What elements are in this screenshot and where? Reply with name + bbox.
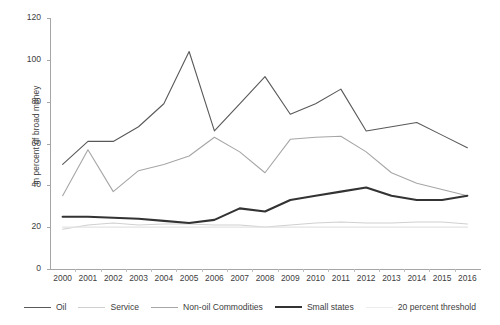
line-chart: in percent of broad money 02040608010012…: [0, 0, 500, 325]
legend-line-swatch: [366, 307, 393, 308]
legend-item[interactable]: Non-oil Commodities: [151, 302, 263, 312]
legend-item[interactable]: Oil: [24, 302, 67, 312]
x-tick-mark: [379, 269, 380, 272]
legend-label: 20 percent threshold: [398, 302, 476, 312]
legend-line-swatch: [78, 307, 105, 308]
legend-label: Non-oil Commodities: [183, 302, 263, 312]
x-tick-mark: [328, 269, 329, 272]
x-tick-mark: [202, 269, 203, 272]
y-tick-label: 0: [36, 264, 41, 273]
series-line: [63, 187, 468, 223]
y-tick-label: 60: [31, 139, 41, 148]
y-tick-label: 80: [31, 97, 41, 106]
y-axis-ticks: 020406080100120: [0, 0, 46, 325]
x-tick-mark: [278, 269, 279, 272]
y-tick-label: 20: [31, 222, 41, 231]
legend-item[interactable]: Service: [78, 302, 139, 312]
x-tick-mark: [303, 269, 304, 272]
x-tick-mark: [252, 269, 253, 272]
x-tick-mark: [455, 269, 456, 272]
x-tick-mark: [101, 269, 102, 272]
series-line: [63, 222, 468, 229]
x-tick-mark: [176, 269, 177, 272]
legend-line-swatch: [24, 307, 51, 308]
x-tick-mark: [126, 269, 127, 272]
x-tick-mark: [429, 269, 430, 272]
legend-item[interactable]: 20 percent threshold: [366, 302, 476, 312]
x-axis-ticks: 2000200120022003200420052006200720082009…: [50, 273, 480, 287]
x-tick-label: 2016: [447, 273, 487, 283]
plot-area: [50, 18, 480, 269]
legend-label: Small states: [307, 302, 354, 312]
x-tick-mark: [151, 269, 152, 272]
series-line: [63, 51, 468, 164]
legend-line-swatch: [275, 306, 302, 308]
y-tick-label: 100: [27, 55, 41, 64]
x-tick-mark: [404, 269, 405, 272]
x-tick-mark: [354, 269, 355, 272]
y-tick-label: 40: [31, 180, 41, 189]
series-lines: [50, 18, 480, 269]
y-tick-label: 120: [27, 13, 41, 22]
x-tick-mark: [75, 269, 76, 272]
chart-legend: OilServiceNon-oil CommoditiesSmall state…: [0, 296, 500, 318]
legend-label: Oil: [56, 302, 67, 312]
series-line: [63, 136, 468, 196]
legend-item[interactable]: Small states: [275, 302, 354, 312]
legend-label: Service: [110, 302, 139, 312]
legend-line-swatch: [151, 307, 178, 308]
x-tick-mark: [227, 269, 228, 272]
